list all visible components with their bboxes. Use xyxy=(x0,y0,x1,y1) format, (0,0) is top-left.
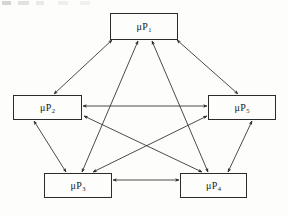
node-up3[interactable]: μP3 xyxy=(44,173,112,198)
edge-up2-up4 xyxy=(84,116,202,172)
node-up4-label: μP4 xyxy=(206,181,221,191)
diagram-canvas: μP1 μP2 μP5 μP3 μP4 xyxy=(0,0,288,215)
edge-up2-up3 xyxy=(34,121,66,172)
node-up1-label: μP1 xyxy=(137,22,152,32)
node-up4[interactable]: μP4 xyxy=(180,173,247,198)
node-up2-label: μP2 xyxy=(40,103,55,113)
edge-up1-up2 xyxy=(54,40,112,94)
node-up5-label: μP5 xyxy=(235,103,250,113)
node-up5[interactable]: μP5 xyxy=(208,95,276,120)
edge-up5-up4 xyxy=(228,121,252,172)
edge-up1-up5 xyxy=(177,40,238,94)
node-up3-label: μP3 xyxy=(71,181,86,191)
edge-up5-up3 xyxy=(93,116,207,172)
node-up1[interactable]: μP1 xyxy=(110,13,178,40)
node-up2[interactable]: μP2 xyxy=(13,95,82,120)
